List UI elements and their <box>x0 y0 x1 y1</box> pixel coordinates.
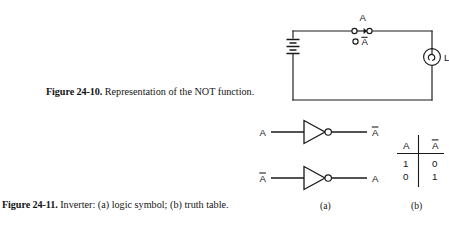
figure-2410-caption-label: Figure 24-10. <box>46 86 102 97</box>
switch-label-a: A <box>360 12 367 23</box>
truth-table-cell-r0c0: 1 <box>403 158 408 169</box>
inverter-row-2: A A <box>259 167 379 190</box>
figure-page: A A L Figure 24-10. Representation of th… <box>0 0 449 227</box>
lamp-label: L <box>444 52 449 63</box>
inverter-2-output-label: A <box>372 173 379 184</box>
inverter-1-output-label: A <box>372 127 379 138</box>
truth-table-header-a: A <box>403 140 410 151</box>
truth-table-header-a-bar: A <box>432 140 439 151</box>
inverter-logic-symbols: A A A A <box>255 112 390 204</box>
figure-2411-caption-text: Inverter: (a) logic symbol; (b) truth ta… <box>60 199 228 210</box>
not-function-circuit: A A L <box>283 8 449 108</box>
figure-2411-caption-label: Figure 24-11. <box>2 199 58 210</box>
inverter-2-input-label: A <box>260 173 267 184</box>
inverter-row-1: A A <box>260 121 380 144</box>
sublabel-a: (a) <box>320 200 331 211</box>
figure-2410-caption-text: Representation of the NOT function. <box>105 86 254 97</box>
inverter-1-input-label: A <box>260 127 267 138</box>
inverter-truth-table: A A 1 0 0 1 <box>392 134 449 190</box>
figure-2411-caption: Figure 24-11. Inverter: (a) logic symbol… <box>2 199 229 211</box>
sublabel-b: (b) <box>411 200 422 211</box>
truth-table-cell-r0c1: 0 <box>432 158 438 169</box>
truth-table-cell-r1c1: 1 <box>432 171 437 182</box>
truth-table-cell-r1c0: 0 <box>403 171 409 182</box>
figure-2410-caption: Figure 24-10. Representation of the NOT … <box>46 86 254 98</box>
